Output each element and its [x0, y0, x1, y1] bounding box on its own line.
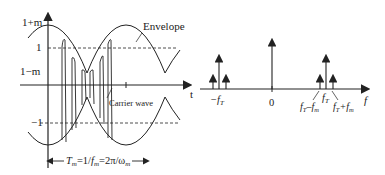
frequency-spectrum-plot: −fT 0 fT fT–fm fT+fm f — [200, 40, 369, 113]
label-1-plus-m: 1+m — [22, 16, 43, 28]
carrier-wave-label: Carrier wave — [109, 98, 153, 108]
am-modulation-diagram: 1+m 1 1−m −1 t Envelope Carrier wave Tm=… — [0, 0, 385, 175]
envelope-label: Envelope — [143, 20, 185, 32]
period-label: Tm=1/fm=2π/ωm — [66, 155, 130, 168]
upper-sideband-label: fT+fm — [333, 101, 354, 113]
time-domain-plot: 1+m 1 1−m −1 t Envelope Carrier wave Tm=… — [20, 14, 193, 168]
label-1: 1 — [36, 41, 42, 53]
zero-label: 0 — [269, 97, 274, 108]
neg-carrier-label: −fT — [210, 94, 225, 107]
carrier-wave — [62, 39, 112, 142]
label-neg-1: −1 — [31, 116, 43, 128]
carrier-label: fT — [322, 92, 330, 105]
lower-sideband-label: fT–fm — [300, 101, 319, 113]
f-axis-label: f — [364, 94, 369, 106]
x-axis-label-t: t — [190, 88, 193, 100]
label-1-minus-m: 1−m — [20, 65, 41, 77]
